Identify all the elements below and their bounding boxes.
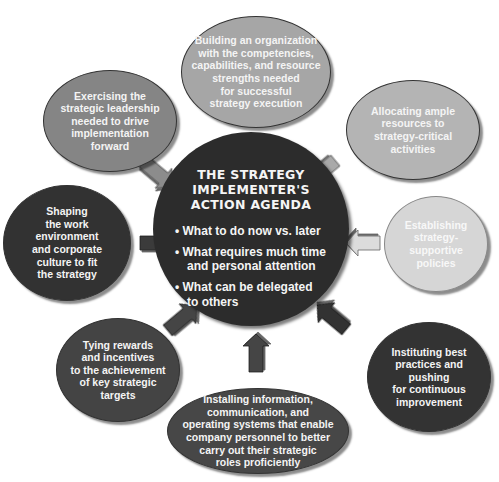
- node-bottom: Installing information, communication, a…: [167, 388, 349, 474]
- node-top-right: Allocating ample resources to strategy-c…: [346, 80, 480, 180]
- node-top-left: Exercising the strategic leadership need…: [43, 70, 177, 172]
- node-top-label: Building an organization with the compet…: [192, 34, 321, 110]
- node-right-label: Establishing strategy- supportive polici…: [405, 219, 467, 269]
- node-left: Shaping the work environment and corpora…: [3, 185, 131, 301]
- action-agenda-center: THE STRATEGY IMPLEMENTER'S ACTION AGENDA…: [153, 132, 349, 326]
- node-bottom-left-label: Tying rewards and incentives to the achi…: [70, 339, 165, 402]
- node-left-label: Shaping the work environment and corpora…: [32, 205, 102, 281]
- arrow-up-icon: [243, 334, 269, 372]
- node-top-right-label: Allocating ample resources to strategy-c…: [371, 105, 455, 155]
- action-agenda-list: • What to do now vs. later • What requir…: [175, 224, 326, 315]
- agenda-item: • What can be delegated to others: [175, 280, 326, 309]
- agenda-item: • What requires much time and personal a…: [175, 245, 326, 274]
- arrow-left-icon: [346, 230, 380, 256]
- node-bottom-right-label: Instituting best practices and pushing f…: [391, 346, 466, 409]
- node-top-left-label: Exercising the strategic leadership need…: [60, 90, 159, 153]
- action-agenda-title: THE STRATEGY IMPLEMENTER'S ACTION AGENDA: [153, 168, 349, 212]
- node-bottom-left: Tying rewards and incentives to the achi…: [56, 318, 180, 422]
- node-right: Establishing strategy- supportive polici…: [384, 196, 488, 292]
- node-bottom-label: Installing information, communication, a…: [182, 393, 333, 469]
- agenda-item: • What to do now vs. later: [175, 224, 326, 239]
- node-top: Building an organization with the compet…: [181, 16, 331, 128]
- node-bottom-right: Instituting best practices and pushing f…: [367, 322, 491, 432]
